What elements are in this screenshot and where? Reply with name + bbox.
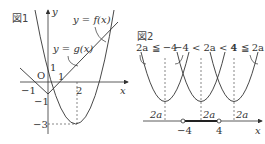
diagram-canvas: 図1 x y O −1 1 2 1 −1 −3 y = f(x) y = g(x… (0, 0, 265, 144)
open-point-neg4 (181, 119, 185, 123)
tick-neg4: −4 (177, 125, 192, 136)
case-label-left: 2a ≦ −4 (136, 42, 177, 53)
case-label-right: 4 ≦ 2a (231, 42, 264, 53)
tick-y-1: 1 (50, 62, 56, 73)
figure-1-title: 図1 (12, 13, 28, 24)
tick-x-neg1: −1 (21, 85, 36, 96)
case-label-middle: −4 < 2a < 4 (174, 42, 237, 53)
vertex-label-right: 2a (235, 109, 248, 120)
figure-1: 図1 x y O −1 1 2 1 −1 −3 y = f(x) y = g(x… (12, 6, 128, 134)
x-axis-2-label: x (255, 125, 261, 136)
origin-label: O (37, 70, 45, 81)
vertex-label-left: 2a (149, 109, 162, 120)
vertex-label-middle: 2a (202, 109, 215, 120)
figure-2-title: 図2 (137, 31, 153, 42)
curve-g (20, 22, 118, 94)
tick-y-neg3: −3 (33, 119, 48, 130)
x-axis-label: x (120, 85, 126, 96)
open-point-4 (217, 119, 221, 123)
y-axis-label: y (51, 6, 58, 17)
figure-2: 図2 2a ≦ −4 −4 < 2a < 4 4 ≦ 2a x −4 4 2a … (136, 31, 264, 136)
curve-f-label: y = f(x) (72, 14, 111, 25)
tick-4: 4 (216, 125, 222, 136)
curve-g-label: y = g(x) (52, 43, 93, 54)
tick-y-neg1: −1 (34, 96, 49, 107)
